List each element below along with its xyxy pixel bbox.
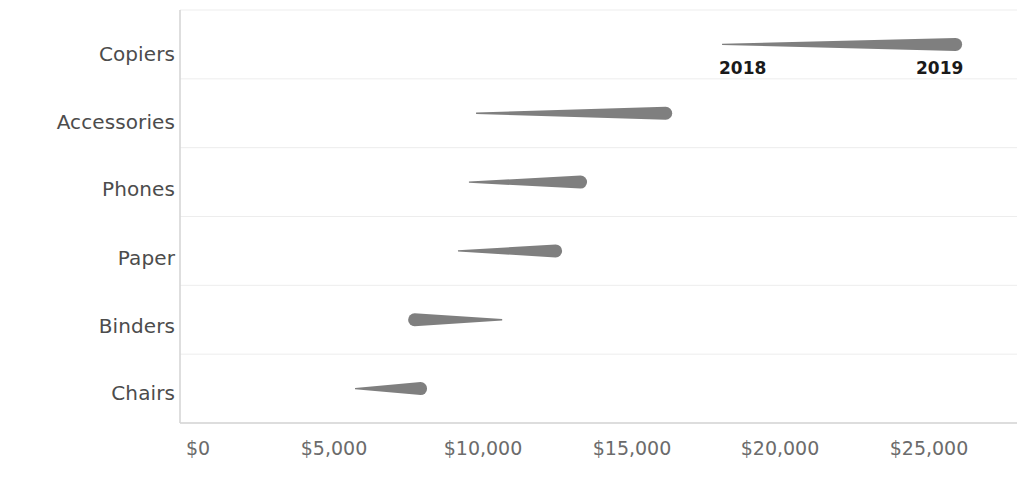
arrow-binders: [408, 313, 502, 326]
arrow-phones: [469, 176, 587, 189]
chart-plot-area: [0, 0, 1017, 483]
arrow-paper: [458, 244, 562, 257]
y-axis-label-binders: Binders: [0, 314, 175, 338]
y-axis-label-chairs: Chairs: [0, 381, 175, 405]
x-axis-tick-10000: $10,000: [423, 437, 543, 459]
legend-start-year-2018: 2018: [719, 58, 766, 78]
arrow-copiers: [722, 38, 962, 51]
arrow-accessories: [476, 107, 672, 120]
y-axis-label-phones: Phones: [0, 177, 175, 201]
x-axis-tick-15000: $15,000: [572, 437, 692, 459]
x-axis-tick-25000: $25,000: [869, 437, 989, 459]
x-axis-tick-5000: $5,000: [274, 437, 394, 459]
slope-arrow-chart: Copiers Accessories Phones Paper Binders…: [0, 0, 1017, 483]
y-axis-label-paper: Paper: [0, 246, 175, 270]
gridlines: [180, 10, 1017, 423]
legend-end-year-2019: 2019: [916, 58, 963, 78]
x-axis-tick-20000: $20,000: [720, 437, 840, 459]
y-axis-label-copiers: Copiers: [0, 42, 175, 66]
x-axis-tick-0: $0: [138, 437, 258, 459]
y-axis-label-accessories: Accessories: [0, 110, 175, 134]
arrow-chairs: [355, 382, 427, 395]
